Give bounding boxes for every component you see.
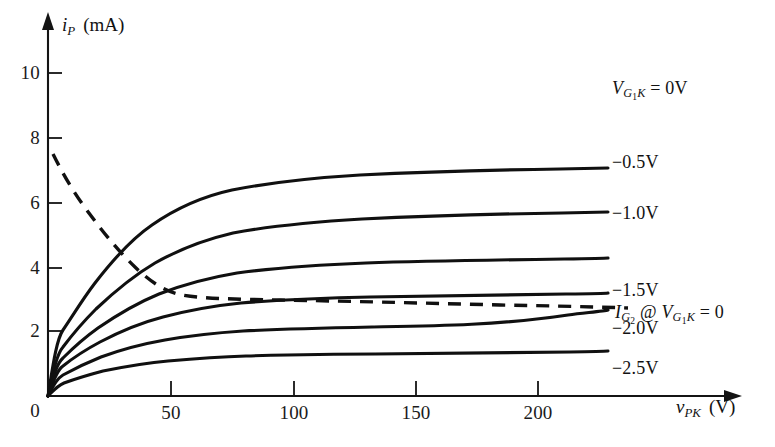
x-tick-label-200: 200 xyxy=(508,402,568,424)
x-axis-title: vPK(V) xyxy=(676,396,735,418)
y-axis-arrowhead xyxy=(42,12,54,30)
y-axis-title: iP(mA) xyxy=(62,14,124,36)
curve-label-equals: = 0V xyxy=(646,78,688,98)
y-tick-label-6: 6 xyxy=(0,192,40,214)
curve-label-subscript: G1K xyxy=(623,86,645,100)
x-tick-label-50: 50 xyxy=(141,402,201,424)
curve-label-symbol: V xyxy=(612,78,623,98)
x-axis-ticks xyxy=(171,381,538,396)
y-axis-subscript: P xyxy=(67,23,75,38)
curve-label-vg1k-0v: VG1K = 0V xyxy=(612,78,688,99)
curve-label-minus-1p0v: −1.0V xyxy=(612,203,659,224)
x-axis-subscript: PK xyxy=(684,405,701,420)
y-axis-ticks xyxy=(48,73,62,331)
curve-vg1k-minus-2p5v xyxy=(48,351,608,396)
ig2-equals: = 0 xyxy=(695,302,724,322)
y-tick-label-8: 8 xyxy=(0,127,40,149)
y-axis-unit: (mA) xyxy=(83,14,124,35)
curve-label-minus-1p5v: −1.5V xyxy=(612,280,659,301)
curve-label-minus-2p0v: −2.0V xyxy=(612,318,659,339)
y-tick-label-10: 10 xyxy=(0,62,40,84)
x-tick-label-150: 150 xyxy=(386,402,446,424)
y-tick-label-2: 2 xyxy=(0,320,40,342)
curve-label-minus-0p5v: −0.5V xyxy=(612,152,659,173)
ig2-subscript2: G1K xyxy=(673,310,695,324)
plot-area xyxy=(0,0,775,447)
tube-characteristic-curves-figure: iP(mA) vPK(V) 10 8 6 4 2 0 50 100 150 20… xyxy=(0,0,775,447)
curve-family xyxy=(48,168,608,396)
y-tick-label-0: 0 xyxy=(0,400,40,422)
x-tick-label-100: 100 xyxy=(264,402,324,424)
y-tick-label-4: 4 xyxy=(0,257,40,279)
x-axis-unit: (V) xyxy=(709,396,735,417)
curve-vg1k-0v xyxy=(48,168,608,396)
ig2-symbol2: V xyxy=(661,302,672,322)
curve-label-minus-2p5v: −2.5V xyxy=(612,358,659,379)
